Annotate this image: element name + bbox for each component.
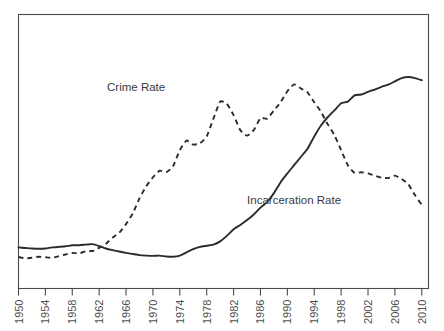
x-tick-label-1978: 1978 [201, 300, 213, 324]
x-tick-label-1958: 1958 [66, 300, 78, 324]
x-tick-label-2002: 2002 [362, 300, 374, 324]
incarceration-rate-label: Incarceration Rate [247, 194, 341, 206]
x-tick-label-1994: 1994 [308, 300, 320, 324]
x-tick-label-2006: 2006 [389, 300, 401, 324]
x-tick-label-1974: 1974 [174, 300, 186, 324]
chart-background [0, 0, 444, 331]
x-tick-label-1962: 1962 [93, 300, 105, 324]
x-tick-label-1982: 1982 [228, 300, 240, 324]
chart-figure: 1950195419581962196619701974197819821986… [0, 0, 444, 331]
crime-rate-label: Crime Rate [107, 81, 165, 93]
x-tick-label-1954: 1954 [39, 300, 51, 324]
x-tick-label-2010: 2010 [416, 300, 428, 324]
x-tick-label-1998: 1998 [335, 300, 347, 324]
x-tick-label-1970: 1970 [147, 300, 159, 324]
x-tick-label-1990: 1990 [281, 300, 293, 324]
x-tick-label-1950: 1950 [13, 300, 25, 324]
crime-and-incarceration-line-chart: 1950195419581962196619701974197819821986… [0, 0, 444, 331]
x-tick-label-1986: 1986 [254, 300, 266, 324]
x-tick-label-1966: 1966 [120, 300, 132, 324]
